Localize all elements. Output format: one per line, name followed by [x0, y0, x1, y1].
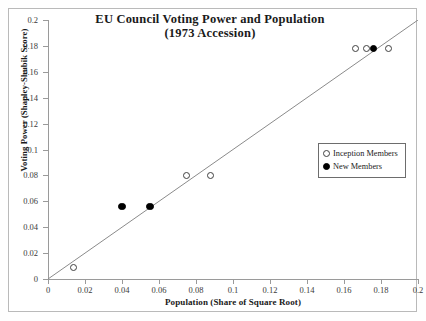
filled-circle-icon: [323, 163, 330, 170]
x-axis-tick-label: 0.1: [213, 285, 253, 295]
legend-label: Inception Members: [333, 149, 398, 158]
y-axis-tick: [43, 253, 48, 254]
legend-item-new-members: New Members: [323, 160, 401, 173]
legend-label: New Members: [333, 162, 382, 171]
data-point: [363, 45, 370, 52]
x-axis-tick-label: 0.06: [139, 285, 179, 295]
y-axis-tick-label: 0.02: [4, 248, 38, 258]
y-axis-title-wrap: Voting Power (Shapley-Shubik Score): [19, 10, 29, 190]
x-axis-tick: [270, 279, 271, 284]
y-axis-tick: [43, 98, 48, 99]
data-point: [352, 45, 359, 52]
x-axis-tick-label: 0.14: [287, 285, 327, 295]
x-axis-title: Population (Share of Square Root): [48, 297, 418, 307]
open-circle-icon: [323, 150, 330, 157]
x-axis-tick: [159, 279, 160, 284]
x-axis-tick: [381, 279, 382, 284]
x-axis-tick: [196, 279, 197, 284]
x-axis-tick: [85, 279, 86, 284]
chart-title-line2: (1973 Accession): [60, 26, 360, 40]
x-axis-tick-label: 0: [28, 285, 68, 295]
x-axis-tick-label: 0.04: [102, 285, 142, 295]
y-axis-tick: [43, 150, 48, 151]
y-axis-tick: [43, 20, 48, 21]
y-axis-line: [48, 20, 49, 280]
y-axis-tick: [43, 201, 48, 202]
x-axis-tick: [344, 279, 345, 284]
x-axis-tick-label: 0.12: [250, 285, 290, 295]
y-axis-tick: [43, 72, 48, 73]
x-axis-tick: [48, 279, 49, 284]
y-axis-tick: [43, 175, 48, 176]
y-axis-title: Voting Power (Shapley-Shubik Score): [19, 10, 29, 190]
data-point: [118, 203, 126, 211]
chart-legend: Inception Members New Members: [318, 143, 406, 178]
data-point: [385, 45, 392, 52]
chart-title-line1: EU Council Voting Power and Population: [95, 12, 324, 26]
x-axis-tick-label: 0.08: [176, 285, 216, 295]
y-axis-tick-label: 0.06: [4, 196, 38, 206]
x-axis-tick: [418, 279, 419, 284]
x-axis-tick: [233, 279, 234, 284]
x-axis-tick-label: 0.16: [324, 285, 364, 295]
x-axis-tick-label: 0.18: [361, 285, 401, 295]
x-axis-tick: [122, 279, 123, 284]
y-axis-tick: [43, 124, 48, 125]
legend-item-inception-members: Inception Members: [323, 147, 401, 160]
data-point: [146, 203, 154, 211]
x-axis-tick-label: 0.2: [398, 285, 426, 295]
y-axis-tick-label: 0.04: [4, 222, 38, 232]
y-axis-tick: [43, 46, 48, 47]
chart-figure: EU Council Voting Power and Population (…: [0, 0, 426, 321]
x-axis-tick: [307, 279, 308, 284]
x-axis-tick-label: 0.02: [65, 285, 105, 295]
y-axis-tick-label: 0: [4, 274, 38, 284]
y-axis-tick: [43, 227, 48, 228]
chart-title: EU Council Voting Power and Population (…: [60, 12, 360, 40]
